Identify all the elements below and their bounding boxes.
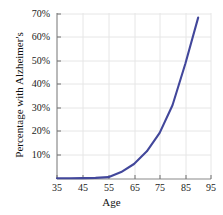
x-tick-label-75: 75: [148, 183, 172, 193]
x-tick-label-45: 45: [71, 183, 95, 193]
x-tick-label-85: 85: [174, 183, 198, 193]
x-tick-label-55: 55: [97, 183, 121, 193]
alzheimers-prevalence-chart: 70% 60% 50% 40% 30% 20% 10% 35 45 55 65 …: [0, 0, 223, 215]
x-tick-label-95: 95: [199, 183, 223, 193]
y-axis-title: Percentage with Alzheimer's: [13, 10, 25, 180]
x-tick-label-35: 35: [45, 183, 69, 193]
x-axis-title: Age: [0, 196, 223, 208]
x-tick-label-65: 65: [123, 183, 147, 193]
plot-area-background: [57, 13, 211, 179]
